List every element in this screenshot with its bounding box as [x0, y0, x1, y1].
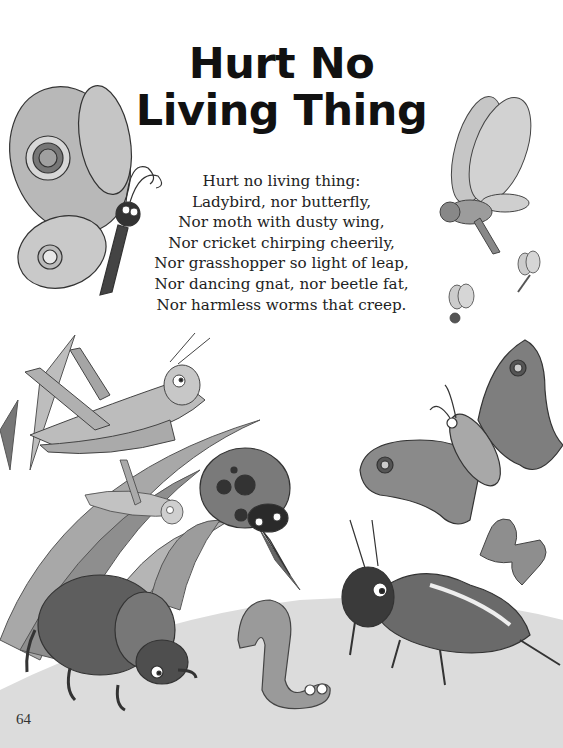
poem-line: Ladybird, nor butterfly, [100, 192, 463, 213]
moth-illustration [360, 340, 563, 524]
poem-line: Nor cricket chirping cheerily, [100, 233, 463, 254]
poem-line: Nor harmless worms that creep. [100, 295, 463, 316]
poem-line: Nor dancing gnat, nor beetle fat, [100, 274, 463, 295]
title-line: Hurt No [0, 40, 563, 87]
small-moth-illustration [480, 519, 546, 585]
poem-title: Hurt No Living Thing [0, 40, 563, 134]
poem-line: Nor grasshopper so light of leap, [100, 253, 463, 274]
poem-line: Hurt no living thing: [100, 171, 463, 192]
poem-line: Nor moth with dusty wing, [100, 212, 463, 233]
title-line: Living Thing [0, 87, 563, 134]
book-page: Hurt No Living Thing Hurt no living thin… [0, 0, 563, 748]
page-number: 64 [16, 711, 31, 728]
grasshopper-illustration [25, 333, 210, 454]
poem-body: Hurt no living thing: Ladybird, nor butt… [100, 171, 463, 315]
